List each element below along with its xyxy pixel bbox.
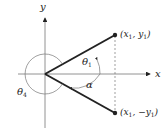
point-upper-label: (x1, y1) bbox=[120, 30, 151, 40]
point-lower bbox=[113, 111, 117, 115]
theta1-label: θ1 bbox=[82, 57, 92, 68]
alpha-arc bbox=[70, 74, 100, 88]
ray-lower bbox=[45, 74, 115, 113]
theta1-arc bbox=[97, 60, 100, 75]
angle-diagram: y x (x1, y1) (x1, −y1) θ1 α θ4 bbox=[0, 0, 168, 131]
x-axis-label: x bbox=[155, 69, 161, 79]
theta4-label: θ4 bbox=[17, 87, 27, 98]
y-axis-label: y bbox=[40, 2, 46, 12]
point-lower-label: (x1, −y1) bbox=[120, 108, 158, 118]
ray-upper bbox=[45, 35, 115, 74]
point-upper bbox=[113, 33, 117, 37]
alpha-label: α bbox=[86, 80, 93, 90]
